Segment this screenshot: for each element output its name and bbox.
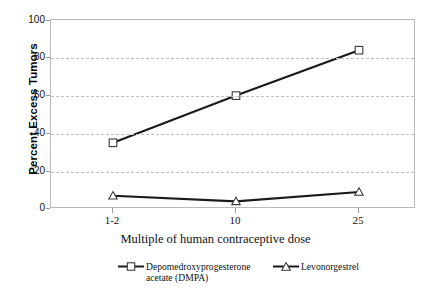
y-tick-label-80: 80 xyxy=(14,52,45,62)
y-tick-mark-0 xyxy=(46,208,50,209)
legend-label-dmpa: Depomedroxyprogesterone acetate (DMPA) xyxy=(146,261,250,283)
x-tick-mark-3 xyxy=(358,208,359,213)
dmpa-marker-1 xyxy=(109,139,117,147)
chart-figure: Percent Excess Tumors 100 80 60 40 20 0 xyxy=(0,0,431,295)
y-tick-label-60: 60 xyxy=(14,90,45,100)
x-tick-mark-2 xyxy=(235,208,236,213)
plot-area xyxy=(50,19,415,208)
gridline-20 xyxy=(51,172,414,173)
y-tick-label-100: 100 xyxy=(14,15,45,25)
legend-label-levonorgestrel: Levonorgestrel xyxy=(301,261,359,272)
x-tick-label-1-2: 1-2 xyxy=(82,214,142,226)
y-tick-label-20: 20 xyxy=(14,166,45,176)
x-tick-label-25: 25 xyxy=(328,214,388,226)
open-square-marker-icon xyxy=(118,261,144,272)
series-lines xyxy=(51,20,416,209)
x-tick-mark-1 xyxy=(112,208,113,213)
x-axis-title: Multiple of human contraceptive dose xyxy=(0,232,431,247)
gridline-40 xyxy=(51,134,414,135)
x-tick-label-10: 10 xyxy=(205,214,265,226)
chart-legend: Depomedroxyprogesterone acetate (DMPA) L… xyxy=(0,261,431,291)
open-triangle-marker-icon xyxy=(273,261,299,272)
y-tick-label-40: 40 xyxy=(14,128,45,138)
gridline-60 xyxy=(51,96,414,97)
y-tick-label-0: 0 xyxy=(14,203,45,213)
gridline-80 xyxy=(51,58,414,59)
dmpa-marker-3 xyxy=(355,46,363,54)
